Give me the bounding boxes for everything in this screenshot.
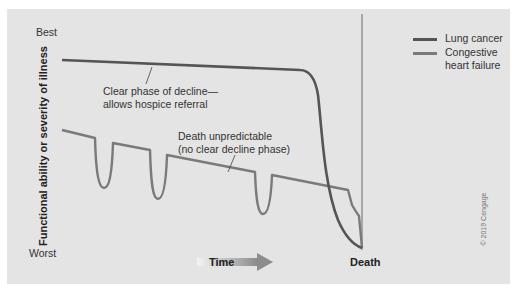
chf-annotation-leader xyxy=(228,155,235,172)
legend-label-lung: Lung cancer xyxy=(445,32,503,45)
legend-label-chf-line1: Congestive xyxy=(445,46,500,59)
y-axis-label: Functional ability or severity of illnes… xyxy=(37,46,49,246)
legend-swatch-chf-icon xyxy=(413,52,437,55)
lung-annotation-leader xyxy=(146,67,152,84)
x-axis-time-label: Time xyxy=(209,256,234,268)
chf-annotation-line2: (no clear decline phase) xyxy=(178,143,290,156)
lung-annotation-line1: Clear phase of decline— xyxy=(103,85,218,98)
chf-annotation-line1: Death unpredictable xyxy=(178,130,290,143)
lung-annotation-line2: allows hospice referral xyxy=(103,98,218,111)
lung-annotation: Clear phase of decline— allows hospice r… xyxy=(103,85,218,111)
chf-annotation: Death unpredictable (no clear decline ph… xyxy=(178,130,290,156)
copyright-notice: © 2019 Cengage xyxy=(480,184,487,254)
x-axis-death-label: Death xyxy=(350,256,381,268)
legend-label-chf: Congestive heart failure xyxy=(445,46,500,72)
legend-swatch-lung-icon xyxy=(413,38,437,41)
legend-label-chf-line2: heart failure xyxy=(445,59,500,72)
y-tick-best: Best xyxy=(36,26,57,38)
y-tick-worst: Worst xyxy=(29,247,56,259)
